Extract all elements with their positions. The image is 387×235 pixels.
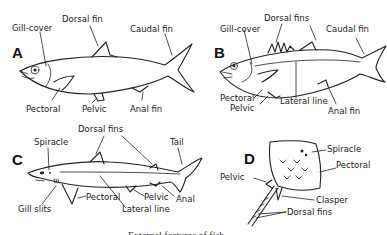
label-a-pelvic: Pelvic	[82, 104, 107, 114]
fish-b-mouth	[222, 72, 232, 78]
label-b-anal-fin: Anal fin	[328, 106, 360, 116]
panel-b-letter: B	[214, 44, 225, 61]
label-c-gill-slits: Gill slits	[18, 204, 52, 214]
fish-b-gill-cover	[242, 62, 252, 82]
label-c-lateral-line: Lateral line	[122, 204, 170, 214]
panel-d: D Spiracle Pectoral Pelvic Clasper Dorsa…	[220, 141, 370, 226]
fish-features-diagram: A Gill-cover Dorsal fin Caudal fin Pecto…	[0, 0, 387, 235]
fish-a-pectoral-fin	[54, 76, 74, 90]
label-b-pectoral: Pectoral	[220, 93, 254, 103]
ray-d-tail	[248, 186, 278, 226]
fish-a-dorsal-fin	[92, 42, 117, 57]
label-d-pectoral: Pectoral	[336, 160, 370, 170]
label-a-pectoral: Pectoral	[26, 104, 60, 114]
label-c-pelvic: Pelvic	[144, 192, 169, 202]
label-a-dorsal-fin: Dorsal fin	[62, 14, 103, 24]
label-b-caudal-fin: Caudal fin	[326, 24, 369, 34]
fish-b-soft-dorsal-fin	[300, 42, 316, 50]
fish-b-anal-fin	[318, 80, 328, 86]
label-b-lateral-line: Lateral line	[280, 96, 328, 106]
fish-b-pectoral-fin	[258, 70, 278, 82]
ray-d-disc	[269, 141, 320, 190]
ray-d-markings	[280, 160, 308, 179]
label-c-spiracle: Spiracle	[34, 137, 68, 147]
label-b-dorsal-fins: Dorsal fins	[264, 13, 310, 23]
panel-c: C Spiracle Dorsal fins Tail	[12, 124, 202, 214]
shark-c-body	[28, 158, 202, 192]
ray-d-spiracle	[301, 150, 304, 153]
label-a-caudal-fin: Caudal fin	[130, 24, 173, 34]
shark-c-pectoral-fin	[62, 184, 78, 204]
label-a-gill-cover: Gill-cover	[12, 23, 53, 33]
label-c-anal: Anal	[176, 194, 195, 204]
panel-c-letter: C	[12, 151, 23, 168]
label-c-dorsal-fins: Dorsal fins	[78, 124, 124, 134]
label-d-pelvic: Pelvic	[220, 172, 245, 182]
shark-c-spiracle	[49, 172, 51, 174]
label-d-dorsal-fins: Dorsal fins	[287, 207, 333, 217]
panel-a-letter: A	[12, 44, 23, 61]
label-c-pectoral: Pectoral	[86, 192, 120, 202]
panel-b: B Gill-cover Dorsal fins Caudal f	[214, 13, 386, 116]
fish-b-lateral-line	[255, 60, 360, 66]
label-d-clasper: Clasper	[316, 195, 349, 205]
panel-a: A Gill-cover Dorsal fin Caudal fin Pecto…	[12, 14, 194, 114]
ray-d-pelvic-fin	[266, 180, 272, 188]
label-d-spiracle: Spiracle	[327, 144, 361, 154]
label-b-gill-cover: Gill-cover	[220, 24, 261, 34]
label-b-pelvic: Pelvic	[230, 103, 255, 113]
shark-c-eye	[40, 172, 44, 175]
fish-a-gill-cover	[46, 64, 51, 86]
shark-c-lateral-line	[60, 172, 180, 174]
panel-d-letter: D	[244, 150, 255, 167]
figure-caption: External features of fish	[128, 230, 224, 235]
label-a-anal-fin: Anal fin	[130, 104, 162, 114]
label-c-tail: Tail	[169, 137, 184, 147]
fish-a-body	[20, 44, 194, 94]
fish-b-body	[220, 46, 386, 98]
